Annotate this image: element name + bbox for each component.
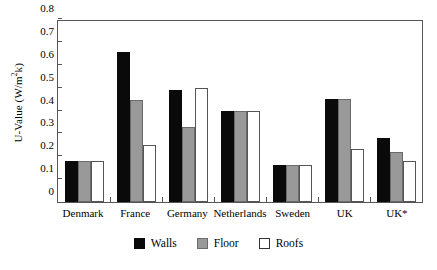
legend-label: Floor	[214, 238, 239, 250]
bar-floor[interactable]	[182, 127, 195, 202]
bar-chart: U-Value (W/m2k) 00.10.20.30.40.50.60.70.…	[0, 0, 437, 270]
x-axis-label: UK*	[371, 205, 423, 223]
bar-floor[interactable]	[130, 100, 143, 202]
legend-swatch-icon	[197, 238, 208, 249]
y-tick-label: 0.2	[40, 140, 54, 151]
bar-group	[214, 21, 266, 202]
legend-swatch-icon	[259, 238, 270, 249]
legend-item-floor[interactable]: Floor	[197, 238, 239, 250]
chart-legend: WallsFloorRoofs	[0, 238, 437, 250]
x-axis-label: France	[109, 205, 161, 223]
bar-group	[58, 21, 110, 202]
y-tick-label: 0.7	[40, 25, 54, 36]
y-axis-title-superscript: 2	[10, 72, 19, 76]
legend-item-roofs[interactable]: Roofs	[259, 238, 303, 250]
bar-group	[110, 21, 162, 202]
x-axis-label: Denmark	[57, 205, 109, 223]
x-axis-label: UK	[319, 205, 371, 223]
bar-group	[318, 21, 370, 202]
bar-groups	[58, 21, 422, 202]
bar-floor[interactable]	[338, 99, 351, 202]
bar-walls[interactable]	[273, 165, 286, 202]
x-axis-label: Germany	[161, 205, 213, 223]
bar-roofs[interactable]	[91, 161, 104, 202]
legend-label: Roofs	[276, 238, 303, 250]
bar-group	[266, 21, 318, 202]
y-tick-mark	[58, 18, 62, 19]
bar-group	[370, 21, 422, 202]
bar-floor[interactable]	[286, 165, 299, 202]
y-tick-label: 0.3	[40, 117, 54, 128]
x-axis-label: Netherlands	[213, 205, 266, 223]
bar-roofs[interactable]	[351, 149, 364, 202]
x-axis-labels: DenmarkFranceGermanyNetherlandsSwedenUKU…	[57, 205, 423, 223]
bar-walls[interactable]	[169, 90, 182, 202]
x-axis-label: Sweden	[267, 205, 319, 223]
bar-floor[interactable]	[78, 161, 91, 202]
bar-walls[interactable]	[221, 111, 234, 203]
bar-walls[interactable]	[377, 138, 390, 202]
bar-walls[interactable]	[65, 161, 78, 202]
y-tick-label: 0.6	[40, 48, 54, 59]
legend-label: Walls	[151, 238, 177, 250]
plot-area: 00.10.20.30.40.50.60.70.8	[57, 20, 423, 203]
bar-floor[interactable]	[234, 111, 247, 203]
legend-item-walls[interactable]: Walls	[134, 238, 177, 250]
legend-swatch-icon	[134, 238, 145, 249]
bar-group	[162, 21, 214, 202]
y-tick-label: 0.8	[40, 3, 54, 14]
bar-roofs[interactable]	[143, 145, 156, 202]
bar-walls[interactable]	[325, 99, 338, 202]
y-tick-label: 0.5	[40, 71, 54, 82]
bar-roofs[interactable]	[195, 88, 208, 202]
y-tick-label: 0.4	[40, 94, 54, 105]
bar-floor[interactable]	[390, 152, 403, 202]
y-tick-label: 0.1	[40, 163, 54, 174]
bar-roofs[interactable]	[403, 161, 416, 202]
y-tick-label: 0	[49, 186, 55, 197]
bar-roofs[interactable]	[299, 165, 312, 202]
y-axis-title: U-Value (W/m2k)	[10, 23, 24, 183]
bar-roofs[interactable]	[247, 111, 260, 203]
bar-walls[interactable]	[117, 52, 130, 202]
